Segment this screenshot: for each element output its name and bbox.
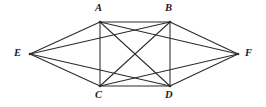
graph-vertex-a: [99, 21, 102, 24]
graph-edge-ae: [30, 22, 100, 54]
graph-edge-bf: [170, 22, 238, 54]
vertex-label-b: B: [165, 3, 172, 14]
vertex-label-d: D: [165, 90, 173, 101]
vertex-label-f: F: [245, 48, 252, 59]
graph-vertex-e: [29, 53, 32, 56]
graph-vertex-f: [237, 53, 240, 56]
graph-edge-ce: [30, 54, 100, 86]
graph-vertex-c: [99, 85, 102, 88]
graph-figure: ABCDEF: [0, 0, 266, 107]
graph-canvas: [0, 0, 266, 107]
graph-vertex-b: [169, 21, 172, 24]
graph-edge-af: [100, 22, 238, 54]
edges-group: [30, 22, 238, 86]
graph-vertex-d: [169, 85, 172, 88]
vertex-label-e: E: [14, 48, 21, 59]
graph-edge-cf: [100, 54, 238, 86]
vertex-label-a: A: [95, 3, 102, 14]
vertex-label-c: C: [95, 90, 102, 101]
graph-edge-df: [170, 54, 238, 86]
